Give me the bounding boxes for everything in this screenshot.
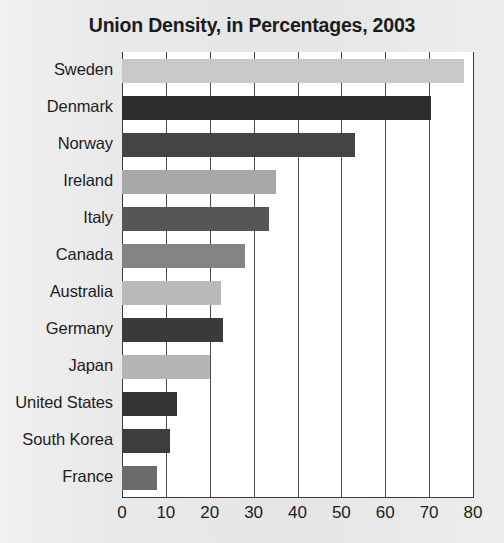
bar-row[interactable] [122, 460, 473, 497]
bar-australia[interactable] [122, 281, 221, 305]
bar-row[interactable] [122, 237, 473, 274]
x-tick-0: 0 [102, 503, 142, 523]
bar-denmark[interactable] [122, 96, 431, 120]
gridline-80 [473, 52, 474, 497]
bar-row[interactable] [122, 386, 473, 423]
y-label-italy: Italy [0, 208, 113, 227]
bar-row[interactable] [122, 200, 473, 237]
chart-page: Union Density, in Percentages, 2003 Swed… [0, 0, 504, 543]
bar-row[interactable] [122, 126, 473, 163]
x-tick-40: 40 [278, 503, 318, 523]
y-label-norway: Norway [0, 134, 113, 153]
x-tick-80: 80 [453, 503, 493, 523]
bar-row[interactable] [122, 312, 473, 349]
bar-united-states[interactable] [122, 392, 177, 416]
x-tick-20: 20 [190, 503, 230, 523]
plot-wrapper: SwedenDenmarkNorwayIrelandItalyCanadaAus… [0, 0, 504, 543]
bar-row[interactable] [122, 275, 473, 312]
bar-france[interactable] [122, 466, 157, 490]
x-tick-50: 50 [321, 503, 361, 523]
plot-area [122, 52, 473, 497]
bar-row[interactable] [122, 89, 473, 126]
y-label-australia: Australia [0, 282, 113, 301]
y-label-france: France [0, 467, 113, 486]
bar-south-korea[interactable] [122, 429, 170, 453]
y-label-denmark: Denmark [0, 97, 113, 116]
y-label-germany: Germany [0, 319, 113, 338]
bar-canada[interactable] [122, 244, 245, 268]
bar-ireland[interactable] [122, 170, 276, 194]
bar-italy[interactable] [122, 207, 269, 231]
bar-germany[interactable] [122, 318, 223, 342]
bar-row[interactable] [122, 163, 473, 200]
x-tick-10: 10 [146, 503, 186, 523]
x-tick-30: 30 [234, 503, 274, 523]
y-label-south-korea: South Korea [0, 430, 113, 449]
x-tick-60: 60 [365, 503, 405, 523]
y-label-japan: Japan [0, 356, 113, 375]
x-axis-line [122, 497, 474, 498]
bar-row[interactable] [122, 52, 473, 89]
bar-japan[interactable] [122, 355, 210, 379]
y-label-ireland: Ireland [0, 171, 113, 190]
y-label-sweden: Sweden [0, 60, 113, 79]
bar-row[interactable] [122, 423, 473, 460]
y-label-united-states: United States [0, 393, 113, 412]
bar-sweden[interactable] [122, 59, 464, 83]
bar-norway[interactable] [122, 133, 355, 157]
bar-row[interactable] [122, 349, 473, 386]
y-label-canada: Canada [0, 245, 113, 264]
x-tick-70: 70 [409, 503, 449, 523]
